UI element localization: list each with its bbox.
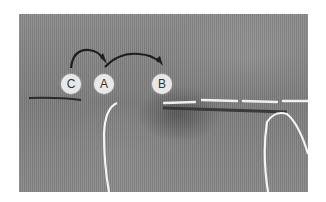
- label-a-text: A: [100, 77, 108, 91]
- thread-right: [265, 113, 308, 192]
- label-b-text: B: [158, 77, 166, 91]
- seam-fold: [163, 108, 287, 112]
- label-c: C: [61, 74, 81, 94]
- fabric-slit-left: [29, 98, 81, 100]
- thread-left: [104, 103, 117, 192]
- label-c-text: C: [67, 77, 76, 91]
- label-a: A: [94, 74, 114, 94]
- stitch-overlay: [19, 14, 308, 192]
- label-b: B: [152, 74, 172, 94]
- running-stitches: [164, 100, 308, 103]
- arrow-c-to-a: [71, 50, 107, 68]
- arrow-a-to-b: [105, 54, 163, 67]
- fabric-photo: C A B: [19, 14, 308, 192]
